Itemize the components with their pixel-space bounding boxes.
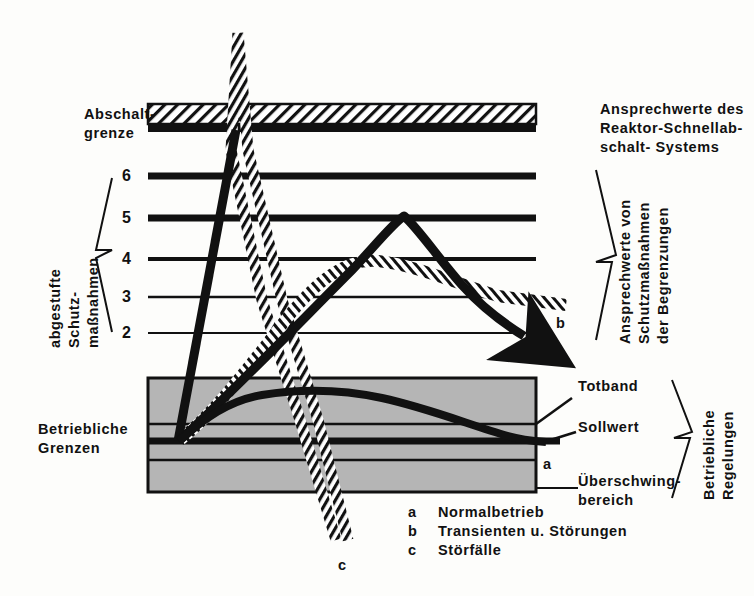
label-sollwert: Sollwert	[578, 418, 639, 437]
leader-deadband	[536, 398, 572, 424]
legend-key: c	[408, 541, 420, 560]
level-number-3: 3	[122, 288, 131, 306]
label-curve-b: b	[556, 314, 565, 333]
level-number-6: 6	[122, 167, 131, 185]
legend: a Normalbetrieb b Transienten u. Störung…	[408, 503, 627, 560]
legend-item: a Normalbetrieb	[408, 503, 627, 522]
label-ansprechwerte-rps: Ansprechwerte des Reaktor-Schnellab- sch…	[600, 100, 744, 157]
legend-key: b	[408, 522, 420, 541]
label-ansprechwerte-begrenzungen: Ansprechwerte von Schutzmaßnahmen der Be…	[616, 199, 673, 344]
level-number-5: 5	[122, 209, 131, 227]
legend-text: Transienten u. Störungen	[438, 522, 627, 541]
label-totband: Totband	[578, 377, 638, 396]
label-abgestufte-schutzmassnahmen: abgestufte Schutz- maßnahmen	[46, 257, 103, 348]
label-curve-a: a	[543, 455, 552, 474]
legend-text: Störfälle	[438, 541, 501, 560]
level-number-4: 4	[122, 250, 131, 268]
level-number-2: 2	[122, 324, 131, 342]
legend-item: c Störfälle	[408, 541, 627, 560]
label-abschaltgrenze: Abschalt- grenze	[84, 105, 155, 143]
label-betriebliche-grenzen: Betriebliche Grenzen	[38, 420, 128, 458]
legend-text: Normalbetrieb	[438, 503, 544, 522]
legend-key: a	[408, 503, 420, 522]
shutdown-limit-band	[148, 104, 536, 132]
right-brace-limitations	[596, 170, 616, 340]
label-betriebliche-regelungen: Betriebliche Regelungen	[700, 410, 738, 500]
legend-item: b Transienten u. Störungen	[408, 522, 627, 541]
label-curve-c: c	[338, 556, 347, 575]
